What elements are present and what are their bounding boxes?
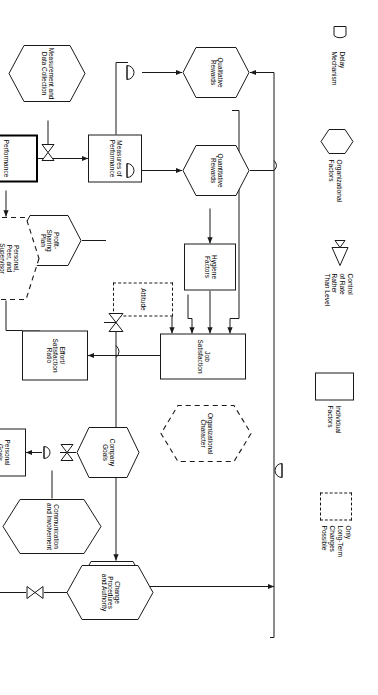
delay-mechanism-icon	[44, 446, 50, 458]
rate-control-valve-icon	[27, 586, 43, 598]
delay-mechanism-icon	[275, 463, 282, 477]
delay-mechanism-icon	[127, 65, 134, 79]
rotated-diagram-container: Delay Mechanism Organizational Factors	[0, 0, 378, 695]
delay-mechanism-icon	[127, 163, 134, 177]
diagram-canvas: Delay Mechanism Organizational Factors	[0, 0, 378, 695]
glyph-layer	[0, 0, 378, 695]
rate-control-valve-icon	[61, 444, 73, 460]
rate-control-valve-icon	[42, 144, 54, 160]
rate-control-valve-icon	[104, 313, 123, 331]
figure-page: Delay Mechanism Organizational Factors	[0, 0, 378, 695]
